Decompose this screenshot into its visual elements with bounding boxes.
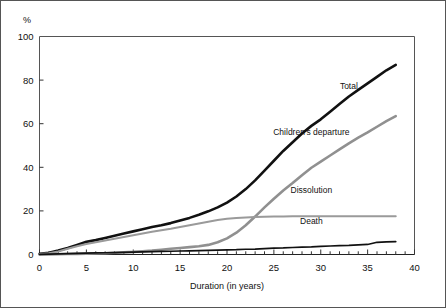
series-label-dissolution: Dissolution: [291, 185, 333, 195]
series-label-death: Death: [300, 216, 323, 226]
y-tick-label: 80: [23, 75, 34, 86]
y-tick-label: 100: [18, 31, 34, 42]
series-line-dissolution: [40, 216, 396, 254]
y-tick-label: 40: [23, 162, 34, 173]
chart-figure: %0204060801000510152025303540Duration (i…: [0, 0, 446, 308]
series-line-children-s-departure: [40, 116, 396, 254]
plot-frame: [40, 37, 415, 255]
x-tick-label: 40: [409, 262, 420, 273]
line-chart: %0204060801000510152025303540Duration (i…: [1, 1, 446, 308]
x-tick-label: 15: [175, 262, 186, 273]
x-axis-title: Duration (in years): [190, 281, 264, 291]
series-label-children-s-departure: Children's departure: [273, 127, 350, 137]
series-label-total: Total: [340, 81, 358, 91]
x-tick-label: 5: [84, 262, 89, 273]
y-tick-label: 0: [28, 249, 33, 260]
x-tick-label: 20: [222, 262, 233, 273]
x-tick-label: 0: [37, 262, 42, 273]
series-line-total: [40, 65, 396, 254]
x-tick-label: 10: [128, 262, 139, 273]
y-tick-label: 60: [23, 118, 34, 129]
x-tick-label: 35: [362, 262, 373, 273]
y-tick-label: 20: [23, 205, 34, 216]
x-tick-label: 30: [315, 262, 326, 273]
y-axis-unit-label: %: [23, 15, 31, 25]
x-tick-label: 25: [269, 262, 280, 273]
